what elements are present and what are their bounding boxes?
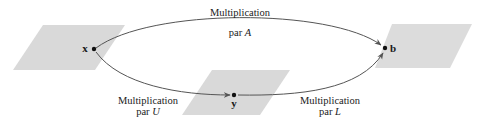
factorization-diagram: x y b Multiplication par A Multiplicatio… [0,0,477,123]
point-b [383,46,387,50]
label-y: y [231,97,237,109]
plane-x [13,25,125,70]
label-b: b [390,42,396,54]
edge-label-a-line1: Multiplication [210,7,271,18]
edge-label-u-line1: Multiplication [118,95,179,106]
edge-label-u-line2: par U [136,106,161,117]
label-x: x [82,42,88,54]
edge-label-l-line2: par L [319,106,341,117]
edge-label-l-line1: Multiplication [300,95,361,106]
point-x [92,47,96,51]
edge-label-a-line2: par A [229,27,252,38]
